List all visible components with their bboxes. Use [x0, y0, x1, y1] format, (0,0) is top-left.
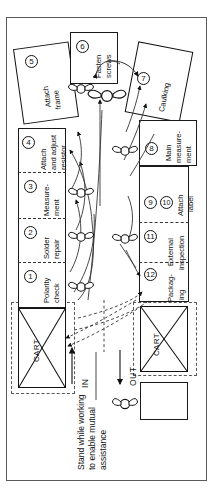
annotation-line2: to enable mutual: [87, 407, 98, 470]
worker-figure: [87, 84, 127, 108]
annotation-line3: assistance: [98, 430, 109, 470]
worker-icon: [112, 140, 138, 162]
worker-icon: [112, 392, 138, 416]
worker-icon: [87, 84, 127, 108]
worker-icon: [68, 182, 94, 204]
worker-figure: [112, 392, 138, 416]
diagram-page: CART 1 Polarity check 2 Solder repair 3 …: [0, 0, 215, 493]
flow-arrows: [0, 0, 215, 493]
annotation-line1: Stand while working: [76, 394, 87, 470]
worker-figure: [112, 228, 138, 250]
worker-figure: [68, 276, 94, 298]
diagram-canvas: CART 1 Polarity check 2 Solder repair 3 …: [0, 0, 215, 493]
worker-icon: [68, 226, 94, 248]
worker-figure: [68, 182, 94, 204]
worker-icon: [112, 228, 138, 250]
worker-icon: [68, 276, 94, 298]
worker-figure: [68, 226, 94, 248]
worker-figure: [112, 140, 138, 162]
